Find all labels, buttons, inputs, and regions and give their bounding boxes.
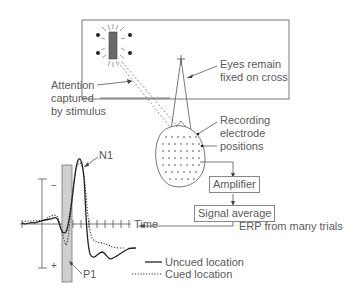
attention-path [118,62,178,127]
label-minus: − [51,180,57,191]
label-attention-line-3: by stimulus [51,105,106,118]
label-eyes-line-1: Eyes remain [220,58,288,71]
label-eyes: Eyes remain fixed on cross [220,58,288,84]
amplifier-box: Amplifier [209,176,260,193]
flashing-stimulus-icon [96,24,132,67]
label-electrodes-line-3: positions [220,140,270,153]
label-eyes-line-2: fixed on cross [220,71,288,84]
legend-uncued: Uncued location [165,257,244,268]
label-attention-line-2: captured [51,92,106,105]
signal-average-label: Signal average [198,207,271,219]
legend-cued: Cued location [165,269,232,280]
uncued-waveform [22,159,136,259]
label-electrodes-line-2: electrode [220,127,270,140]
cued-waveform [22,163,124,248]
erp-axes [20,179,131,268]
diagram-canvas [0,0,357,298]
label-attention: Attention captured by stimulus [51,79,106,118]
label-electrodes-line-1: Recording [220,114,270,127]
label-erp: ERP from many trials [239,221,343,232]
head-electrodes [156,121,205,187]
label-attention-line-1: Attention [51,79,106,92]
gaze-lines [171,59,191,130]
label-time: Time [134,219,158,230]
label-electrodes: Recording electrode positions [220,114,270,153]
label-p1: P1 [83,269,96,280]
label-plus: + [51,260,57,271]
label-n1: N1 [99,150,113,161]
amplifier-label: Amplifier [213,178,256,190]
